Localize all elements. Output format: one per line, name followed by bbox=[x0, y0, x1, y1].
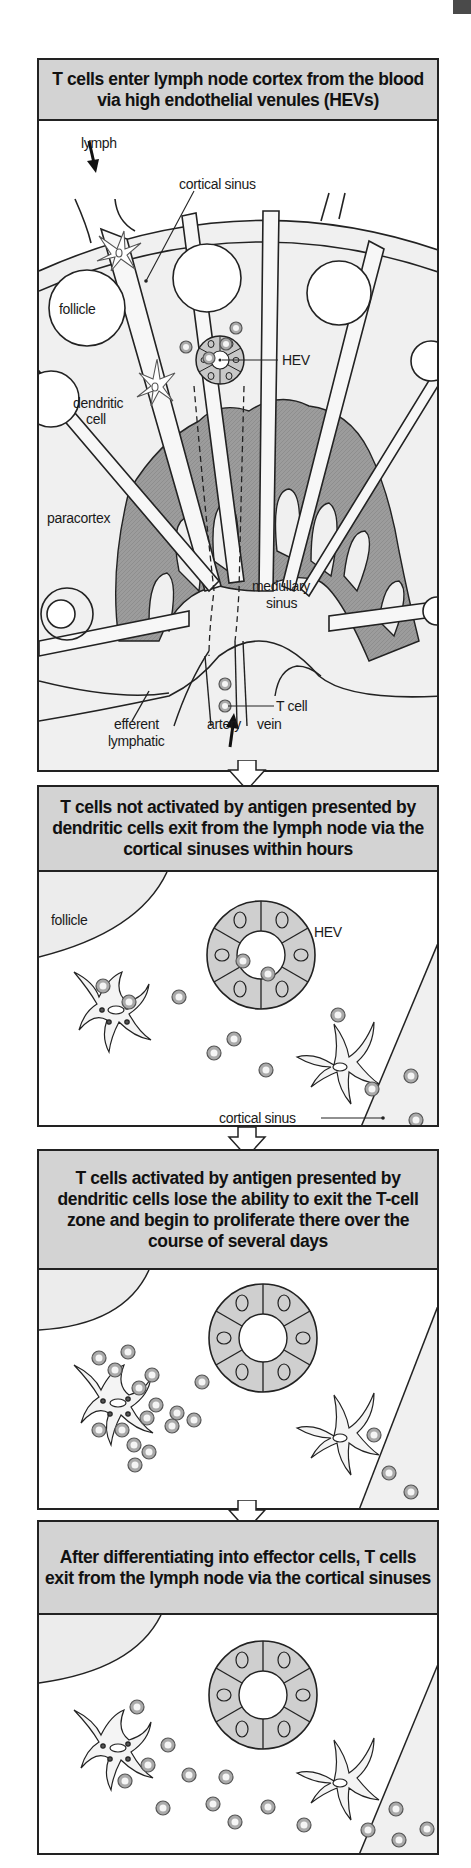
label-vein: vein bbox=[257, 716, 281, 732]
effector-exit-diagram bbox=[39, 1615, 439, 1855]
dendritic-cell-icon bbox=[74, 1365, 379, 1475]
panel-2-diagram: follicle HEV cortical sinus bbox=[37, 872, 439, 1127]
hev-icon bbox=[209, 1284, 317, 1392]
label-artery: artery bbox=[207, 716, 241, 732]
label-cortical-sinus: cortical sinus bbox=[179, 176, 256, 192]
label-follicle: follicle bbox=[59, 301, 96, 317]
t-cell-exit-diagram bbox=[39, 872, 439, 1127]
label-efferent: efferent bbox=[114, 716, 159, 732]
panel-1-diagram: lymph cortical sinus follicle HEV dendri… bbox=[37, 121, 439, 772]
panel-2-header: T cells not activated by antigen present… bbox=[37, 785, 439, 872]
label-dendritic: dendritic bbox=[73, 395, 123, 411]
label-t-cell: T cell bbox=[276, 698, 307, 714]
label-hev: HEV bbox=[314, 924, 342, 940]
label-sinus: sinus bbox=[266, 595, 297, 611]
hev-icon bbox=[207, 901, 315, 1009]
lymph-node-diagram bbox=[39, 121, 439, 772]
panel-1-header: T cells enter lymph node cortex from the… bbox=[37, 58, 439, 121]
label-cortical-sinus: cortical sinus bbox=[219, 1110, 296, 1126]
label-paracortex: paracortex bbox=[47, 510, 110, 526]
panel-4-diagram bbox=[37, 1615, 439, 1855]
label-cell: cell bbox=[86, 411, 106, 427]
t-cell-proliferation-diagram bbox=[39, 1270, 439, 1510]
panel-3-diagram bbox=[37, 1270, 439, 1510]
label-lymphatic: lymphatic bbox=[108, 733, 164, 749]
label-lymph: lymph bbox=[81, 135, 117, 151]
label-medullary: medullary bbox=[252, 578, 310, 594]
hev-icon bbox=[209, 1641, 317, 1749]
corner-tab bbox=[453, 0, 471, 14]
panel-4-header: After differentiating into effector cell… bbox=[37, 1520, 439, 1615]
panel-3-header: T cells activated by antigen presented b… bbox=[37, 1149, 439, 1270]
label-hev: HEV bbox=[282, 352, 310, 368]
label-follicle: follicle bbox=[51, 912, 88, 928]
